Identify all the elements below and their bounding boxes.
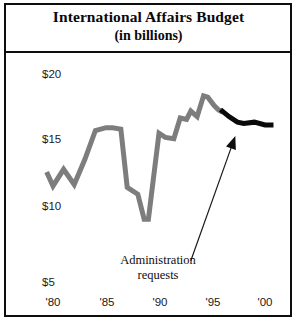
annotation-line-1: Administration <box>120 253 196 268</box>
annotation-label: Administration requests <box>120 253 196 283</box>
series-actual-budget-line <box>47 96 223 219</box>
annotation-line-2: requests <box>120 268 196 283</box>
series-administration-requests-line <box>220 110 273 125</box>
annotation-arrow <box>191 136 236 261</box>
plot-area: $20 $15 $10 $5 '80 '85 '90 '95 '00 Admin… <box>0 0 297 321</box>
chart-figure: International Affairs Budget (in billion… <box>0 0 297 321</box>
